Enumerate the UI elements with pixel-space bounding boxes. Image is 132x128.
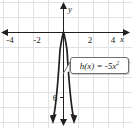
y-axis-top-arrow-icon — [60, 2, 67, 9]
x-tick-label-2: 2 — [88, 35, 93, 45]
y-axis-name: y — [67, 4, 72, 14]
x-tick-label-4: 4 — [111, 35, 116, 45]
callout-exponent: 2 — [116, 60, 119, 66]
x-tick-label--2: -2 — [33, 35, 41, 45]
function-callout-box: h(x) = -5x2 — [70, 57, 129, 74]
x-axis-right-arrow-icon — [123, 29, 130, 36]
function-callout-label: h(x) = -5x2 — [80, 61, 120, 71]
y-tick-label-6: 6 — [53, 93, 58, 103]
graph-figure: -4 -2 2 4 6 x y h(x) = -5x2 — [0, 0, 132, 128]
x-tick-label--4: -4 — [6, 35, 14, 45]
callout-function-name: h(x) — [80, 61, 95, 71]
x-axis-name: x — [119, 34, 124, 44]
